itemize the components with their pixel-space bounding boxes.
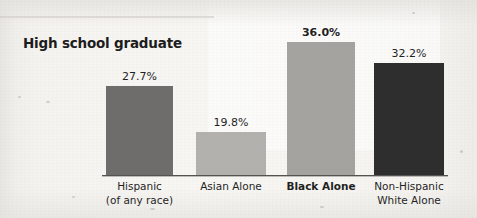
bar-value-label-2: 19.8% [196,116,266,129]
bar-asian-alone[interactable] [196,132,266,175]
bar-value-label-3: 36.0% [287,26,355,39]
bar-black-alone[interactable] [287,42,355,175]
category-label-4-line1: Non-Hispanic [361,180,457,194]
category-label-4: Non-Hispanic White Alone [361,180,457,207]
bar-chart-figure: High school graduate 27.7% Hispanic (of … [0,0,477,218]
bar-non-hispanic-white-alone[interactable] [374,63,444,175]
x-axis-baseline [102,175,448,176]
bar-hispanic[interactable] [106,86,173,175]
category-label-1-line2: (of any race) [91,194,188,208]
category-label-1-line1: Hispanic [91,180,188,194]
category-label-2-line1: Asian Alone [186,180,276,194]
category-label-2: Asian Alone [186,180,276,194]
bar-value-label-4: 32.2% [374,47,444,60]
category-label-1: Hispanic (of any race) [91,180,188,207]
category-label-3: Black Alone [276,180,366,194]
plot-area: 27.7% Hispanic (of any race) 19.8% Asian… [0,0,477,218]
bar-value-label-1: 27.7% [106,70,173,83]
category-label-4-line2: White Alone [361,194,457,208]
category-label-3-line1: Black Alone [276,180,366,194]
